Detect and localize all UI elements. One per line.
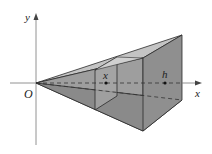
- x-axis-arrow-icon: [195, 81, 202, 86]
- origin-label: O: [24, 88, 33, 100]
- y-axis-label: y: [25, 12, 30, 23]
- point-x: [104, 81, 107, 84]
- height-label: h: [162, 69, 168, 80]
- point-h: [163, 81, 166, 84]
- y-axis-arrow-icon: [34, 13, 39, 20]
- cross-section-label: x: [103, 70, 108, 81]
- x-axis-label: x: [195, 88, 200, 99]
